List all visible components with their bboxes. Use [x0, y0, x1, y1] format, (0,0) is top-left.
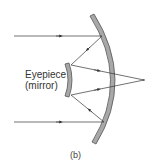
figure-caption: (b): [70, 150, 81, 161]
reflected-ray-top: [71, 36, 102, 65]
eyepiece-label-line1: Eyepiece: [25, 69, 66, 80]
eyepiece-label-line2: (mirror): [25, 80, 66, 91]
primary-mirror: [90, 14, 115, 144]
eyepiece-label: Eyepiece (mirror): [25, 69, 66, 91]
arrow-reflect-top: [87, 47, 90, 50]
converging-ray-top: [71, 65, 144, 80]
arrow-reflect-bottom: [89, 110, 92, 113]
reflected-ray-bottom: [71, 95, 104, 122]
converging-ray-bottom: [71, 80, 144, 95]
focal-point: [143, 79, 145, 81]
telescope-diagram: [0, 0, 155, 165]
